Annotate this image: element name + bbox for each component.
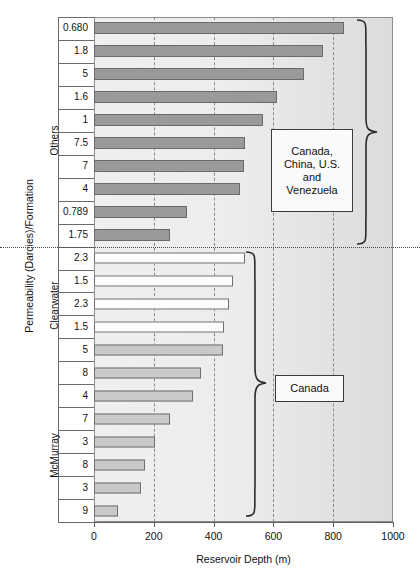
bar-others-0 — [94, 22, 344, 34]
bar-mcmurray-20 — [94, 482, 141, 493]
x-tick-mark-400 — [214, 522, 215, 527]
x-tick-mark-200 — [154, 522, 155, 527]
bar-clearwater-13 — [94, 321, 224, 332]
category-label: 7 — [82, 161, 88, 171]
category-label: 2.3 — [74, 299, 88, 309]
x-tick-label-600: 600 — [253, 530, 293, 542]
category-tick — [58, 407, 94, 408]
category-label: 7.5 — [74, 138, 88, 148]
category-tick — [58, 224, 94, 225]
bar-others-3 — [94, 91, 277, 103]
category-label: 5 — [82, 69, 88, 79]
bar-mcmurray-17 — [94, 413, 170, 424]
category-label: 8 — [82, 368, 88, 378]
category-label: 9 — [82, 506, 88, 516]
group-label-others: Others — [49, 106, 60, 176]
brace-others-icon — [355, 18, 381, 246]
group-divider — [0, 247, 420, 248]
bar-clearwater-11 — [94, 275, 233, 286]
bar-others-7 — [94, 183, 240, 195]
y-axis-title: Permeability (Darcies)/Formation — [23, 171, 35, 341]
bar-others-5 — [94, 137, 245, 149]
category-label: 4 — [82, 184, 88, 194]
category-label: 1 — [82, 115, 88, 125]
category-tick — [58, 292, 94, 293]
category-label: 7 — [82, 414, 88, 424]
brace-canada-icon — [244, 250, 270, 518]
category-tick — [58, 201, 94, 202]
category-tick — [58, 40, 94, 41]
callout-others-line-1: Canada, — [284, 145, 340, 158]
x-tick-mark-600 — [273, 522, 274, 527]
category-tick — [58, 499, 94, 500]
category-tick — [58, 453, 94, 454]
bar-mcmurray-15 — [94, 367, 201, 378]
category-tick — [58, 476, 94, 477]
callout-others-line-3: and — [284, 171, 340, 184]
bar-others-1 — [94, 45, 323, 57]
category-tick — [58, 86, 94, 87]
x-tick-label-800: 800 — [313, 530, 353, 542]
category-label: 1.5 — [74, 276, 88, 286]
x-tick-mark-0 — [94, 522, 95, 527]
category-tick — [58, 132, 94, 133]
x-tick-label-0: 0 — [74, 530, 114, 542]
category-tick — [58, 522, 94, 523]
callout-canada: Canada — [275, 375, 344, 402]
bar-clearwater-12 — [94, 298, 229, 309]
bar-clearwater-10 — [94, 253, 245, 264]
x-tick-mark-800 — [333, 522, 334, 527]
bar-row — [94, 40, 393, 63]
bar-row — [94, 224, 393, 247]
category-label: 1.5 — [74, 322, 88, 332]
bar-mcmurray-14 — [94, 344, 223, 355]
x-axis-title: Reservoir Depth (m) — [94, 553, 393, 565]
category-tick — [58, 109, 94, 110]
callout-others-line-2: China, U.S. — [284, 158, 340, 171]
x-tick-label-1000: 1000 — [373, 530, 413, 542]
x-tick-label-200: 200 — [134, 530, 174, 542]
bar-others-2 — [94, 68, 304, 80]
category-label: 1.75 — [69, 230, 88, 240]
x-axis-line — [94, 522, 393, 523]
category-label: 5 — [82, 345, 88, 355]
category-tick — [58, 384, 94, 385]
category-tick — [58, 17, 94, 18]
bar-mcmurray-19 — [94, 459, 145, 470]
bar-others-9 — [94, 229, 170, 241]
bar-mcmurray-16 — [94, 390, 193, 401]
category-label: 3 — [82, 437, 88, 447]
callout-others-line-4: Venezuela — [284, 184, 340, 197]
x-tick-mark-1000 — [393, 522, 394, 527]
bar-mcmurray-18 — [94, 436, 155, 447]
category-label: 1.6 — [74, 92, 88, 102]
bar-others-8 — [94, 206, 187, 218]
category-tick — [58, 178, 94, 179]
category-tick — [58, 430, 94, 431]
callout-others: Canada, China, U.S. and Venezuela — [271, 129, 353, 212]
category-tick — [58, 63, 94, 64]
bar-row — [94, 63, 393, 86]
category-axis: 0.6801.851.617.5740.7891.752.31.52.31.55… — [0, 17, 94, 522]
category-tick — [58, 315, 94, 316]
category-tick — [58, 338, 94, 339]
category-label: 0.680 — [63, 23, 88, 33]
bar-row — [94, 17, 393, 40]
category-tick — [58, 270, 94, 271]
bar-others-4 — [94, 114, 263, 126]
bar-others-6 — [94, 160, 244, 172]
group-label-clearwater: Clearwater — [49, 254, 60, 358]
chart-figure: 0.6801.851.617.5740.7891.752.31.52.31.55… — [0, 0, 420, 576]
category-label: 0.789 — [63, 207, 88, 217]
x-tick-label-400: 400 — [194, 530, 234, 542]
bar-row — [94, 86, 393, 109]
category-tick — [58, 155, 94, 156]
category-label: 2.3 — [74, 253, 88, 263]
category-label: 4 — [82, 391, 88, 401]
category-tick — [58, 361, 94, 362]
group-label-mcmurray: McMurray — [49, 411, 60, 501]
category-label: 8 — [82, 460, 88, 470]
category-label: 1.8 — [74, 46, 88, 56]
category-label: 3 — [82, 483, 88, 493]
bar-mcmurray-21 — [94, 505, 118, 516]
